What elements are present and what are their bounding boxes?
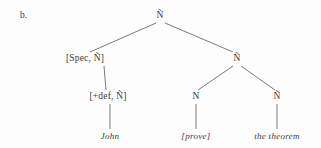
- tree-leaf-prove: [prove]: [181, 132, 210, 141]
- item-label: b.: [20, 11, 27, 21]
- tree-edge-nbar_right-nbar_theorem: [241, 66, 275, 90]
- tree-edges: [0, 0, 321, 148]
- tree-node-n_prove: N: [192, 92, 199, 102]
- tree-edge-root-spec: [90, 23, 156, 52]
- tree-edge-nbar_right-n_prove: [198, 66, 233, 90]
- tree-leaf-theorem: the theorem: [254, 132, 300, 141]
- tree-node-root: Ñ: [156, 11, 163, 21]
- tree-node-nbar_right: Ñ: [233, 54, 240, 64]
- tree-node-def: [+def, Ñ]: [89, 92, 126, 102]
- tree-leaf-john: John: [101, 132, 120, 141]
- tree-edge-root-nbar_right: [165, 23, 233, 52]
- tree-node-spec: [Spec, Ñ]: [66, 54, 104, 64]
- syntax-tree-figure: b. Ñ[Spec, Ñ]Ñ[+def, Ñ]NÑJohn[prove]the …: [0, 0, 321, 148]
- tree-edge-spec-def: [104, 66, 106, 90]
- tree-node-nbar_theorem: Ñ: [273, 92, 280, 102]
